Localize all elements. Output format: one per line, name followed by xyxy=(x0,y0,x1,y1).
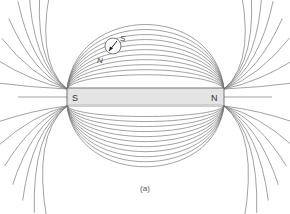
south-pole-label: S xyxy=(72,93,78,103)
compass-north-label: N xyxy=(97,56,103,65)
compass-south-label: S xyxy=(120,34,126,43)
bar-magnet-field-diagram: S N S N xyxy=(0,0,290,214)
north-pole-label: N xyxy=(211,93,218,103)
compass: S N xyxy=(97,34,126,65)
figure-caption: (a) xyxy=(0,184,290,193)
bar-magnet: S N xyxy=(67,88,224,107)
